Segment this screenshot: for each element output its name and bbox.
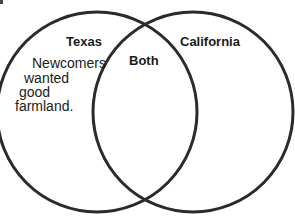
texas-label: Texas <box>66 34 102 49</box>
both-label: Both <box>129 53 159 68</box>
texas-note-line-1: Newcomers <box>32 56 106 70</box>
texas-note-line-3: good <box>19 85 50 99</box>
california-label: California <box>180 34 240 49</box>
texas-note-line-2: wanted <box>24 71 69 85</box>
texas-note-line-4: farmland. <box>15 99 73 113</box>
